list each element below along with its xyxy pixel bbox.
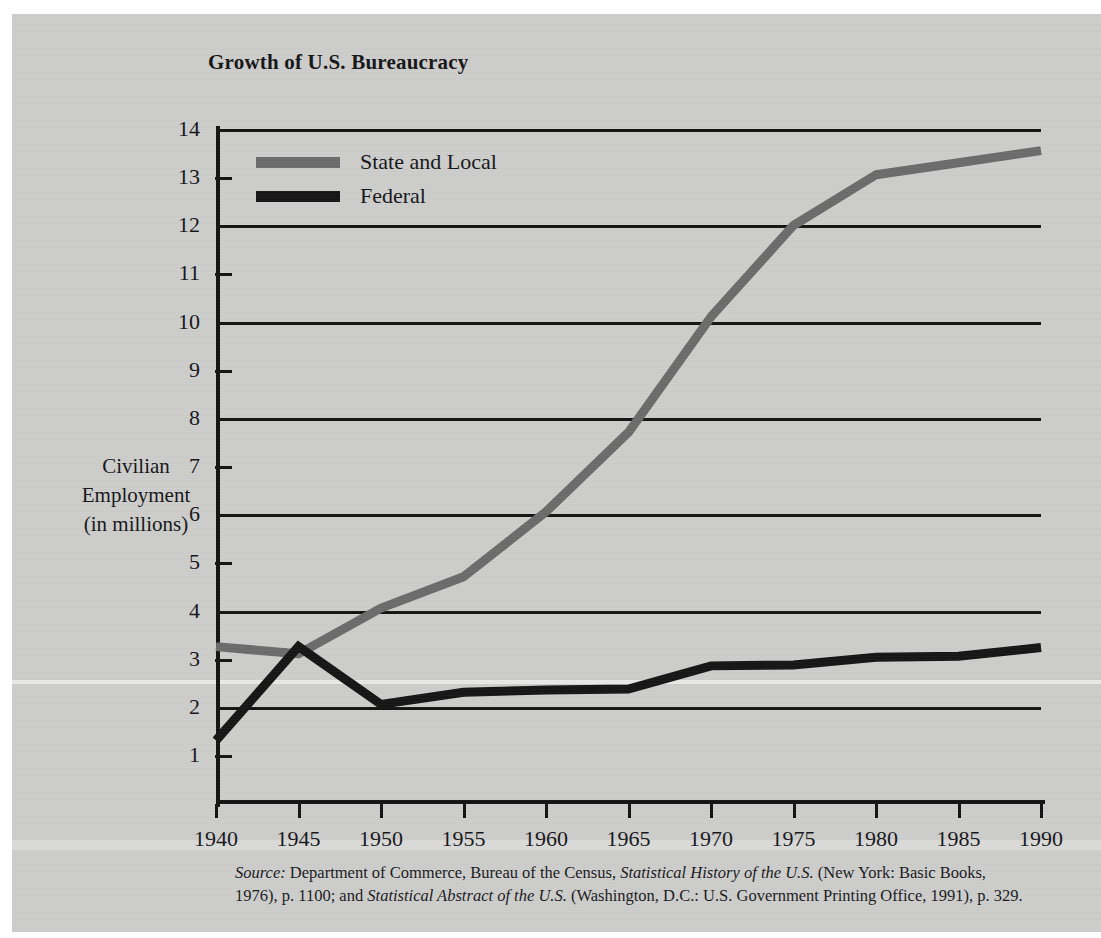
x-tick-label-1970: 1970 xyxy=(689,826,733,852)
legend-item-federal: Federal xyxy=(256,179,556,213)
x-tick-label-1960: 1960 xyxy=(524,826,568,852)
source-text-1: Department of Commerce, Bureau of the Ce… xyxy=(286,863,621,882)
x-tick-label-1985: 1985 xyxy=(937,826,981,852)
legend-label-federal: Federal xyxy=(360,183,426,209)
x-tick-label-1980: 1980 xyxy=(854,826,898,852)
series-line-federal xyxy=(216,647,1041,741)
x-tickmark-1975 xyxy=(793,804,796,818)
y-tick-label-11: 11 xyxy=(179,260,200,286)
x-tickmark-1985 xyxy=(958,804,961,818)
x-tick-label-1990: 1990 xyxy=(1019,826,1063,852)
source-text-3: (Washington, D.C.: U.S. Government Print… xyxy=(567,886,1023,905)
source-italic-1: Statistical History of the U.S. xyxy=(620,863,813,882)
source-italic-2: Statistical Abstract of the U.S. xyxy=(367,886,567,905)
x-tickmark-1940 xyxy=(215,804,218,818)
x-tick-label-1965: 1965 xyxy=(607,826,651,852)
y-axis-title-line-1: Civilian xyxy=(70,452,202,481)
x-tick-label-1955: 1955 xyxy=(442,826,486,852)
x-tickmark-1960 xyxy=(545,804,548,818)
y-tick-label-1: 1 xyxy=(189,742,200,768)
x-tickmark-1980 xyxy=(875,804,878,818)
x-tick-label-1945: 1945 xyxy=(277,826,321,852)
y-tick-label-4: 4 xyxy=(189,598,200,624)
chart-legend: State and Local Federal xyxy=(256,145,556,213)
legend-item-state-and-local: State and Local xyxy=(256,145,556,179)
x-tickmark-1970 xyxy=(710,804,713,818)
y-tick-label-6: 6 xyxy=(189,501,200,527)
x-tick-label-1950: 1950 xyxy=(359,826,403,852)
y-tick-label-7: 7 xyxy=(189,453,200,479)
series-line-state-and-local xyxy=(216,151,1041,654)
source-label: Source: xyxy=(235,863,286,882)
y-tick-label-13: 13 xyxy=(178,164,200,190)
y-axis-title-line-2: Employment xyxy=(70,481,202,510)
y-tick-label-3: 3 xyxy=(189,646,200,672)
x-tickmark-1955 xyxy=(463,804,466,818)
source-note: Source: Department of Commerce, Bureau o… xyxy=(235,862,1025,907)
legend-label-state-and-local: State and Local xyxy=(360,149,497,175)
legend-swatch-state-and-local xyxy=(256,157,340,168)
x-tickmark-1990 xyxy=(1040,804,1043,818)
legend-swatch-federal xyxy=(256,191,340,202)
x-tickmark-1965 xyxy=(628,804,631,818)
chart-title: Growth of U.S. Bureaucracy xyxy=(208,50,469,75)
y-tick-label-9: 9 xyxy=(189,357,200,383)
y-tick-label-5: 5 xyxy=(189,549,200,575)
y-tick-label-10: 10 xyxy=(178,309,200,335)
x-tickmark-1945 xyxy=(298,804,301,818)
y-tick-label-8: 8 xyxy=(189,405,200,431)
plot-area: 1413121110987654321 19401945195019551960… xyxy=(216,129,1041,804)
y-tick-label-2: 2 xyxy=(189,694,200,720)
x-tick-label-1975: 1975 xyxy=(772,826,816,852)
y-axis-title-line-3: (in millions) xyxy=(70,510,202,539)
y-tick-label-12: 12 xyxy=(178,212,200,238)
x-tickmark-1950 xyxy=(380,804,383,818)
y-axis-title: Civilian Employment (in millions) xyxy=(70,452,202,539)
y-tick-label-14: 14 xyxy=(178,116,200,142)
figure-panel: Growth of U.S. Bureaucracy Civilian Empl… xyxy=(12,14,1101,932)
x-tick-label-1940: 1940 xyxy=(194,826,238,852)
series-layer xyxy=(216,129,1041,804)
